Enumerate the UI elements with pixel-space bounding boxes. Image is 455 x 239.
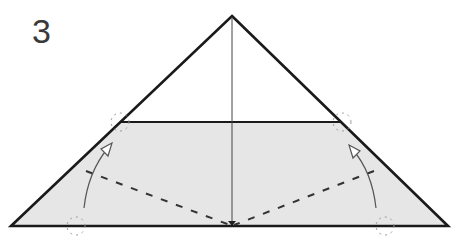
shaded-flap <box>11 122 448 226</box>
origami-diagram <box>0 0 455 239</box>
